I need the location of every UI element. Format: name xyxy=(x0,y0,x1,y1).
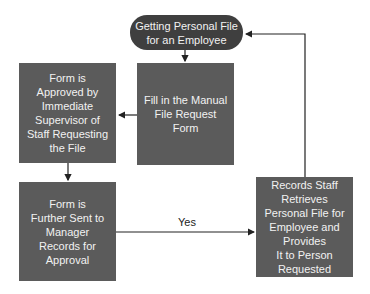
start-node: Getting Personal File for an Employee xyxy=(130,15,243,50)
edge-retrieve-to-start xyxy=(246,34,305,177)
supervisor-approval-node: Form is Approved by Immediate Supervisor… xyxy=(19,63,116,163)
records-retrieve-node: Records Staff Retrieves Personal File fo… xyxy=(256,177,353,277)
fill-form-node: Fill in the Manual File Request Form xyxy=(137,63,234,165)
manager-approval-node: Form is Further Sent to Manager Records … xyxy=(19,182,116,281)
edge-label-yes: Yes xyxy=(178,216,196,228)
